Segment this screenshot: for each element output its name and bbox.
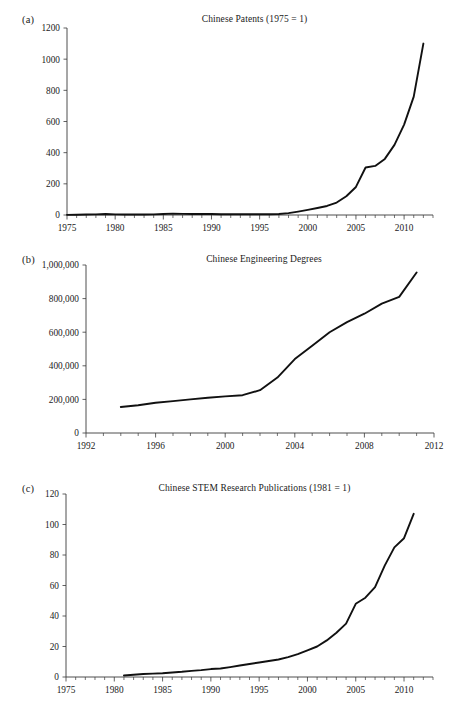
svg-text:1996: 1996 <box>146 441 165 451</box>
svg-text:120: 120 <box>45 489 59 499</box>
svg-text:1985: 1985 <box>153 685 172 695</box>
svg-text:1995: 1995 <box>250 685 269 695</box>
svg-text:400: 400 <box>46 148 60 158</box>
svg-text:2005: 2005 <box>346 685 365 695</box>
svg-text:1992: 1992 <box>77 441 96 451</box>
svg-text:2008: 2008 <box>355 441 374 451</box>
svg-text:2012: 2012 <box>425 441 444 451</box>
svg-text:1995: 1995 <box>250 223 269 233</box>
panel-b-plot: 0200,000400,000600,000800,0001,000,00019… <box>0 240 452 472</box>
svg-text:20: 20 <box>50 642 60 652</box>
svg-text:400,000: 400,000 <box>49 361 80 371</box>
svg-text:600,000: 600,000 <box>49 328 80 338</box>
svg-text:2005: 2005 <box>347 223 366 233</box>
svg-text:1975: 1975 <box>57 685 76 695</box>
figure-three-panel-charts: (a) Chinese Patents (1975 = 1) 020040060… <box>0 0 452 713</box>
svg-text:1985: 1985 <box>154 223 173 233</box>
chart-panel-c: (c) Chinese STEM Research Publications (… <box>0 472 452 713</box>
svg-text:800,000: 800,000 <box>49 294 80 304</box>
svg-text:2010: 2010 <box>395 223 414 233</box>
svg-text:1975: 1975 <box>58 223 77 233</box>
svg-text:1000: 1000 <box>41 55 60 65</box>
svg-text:2000: 2000 <box>298 223 317 233</box>
panel-a-plot: 0200400600800100012001975198019851990199… <box>0 0 452 240</box>
chart-panel-a: (a) Chinese Patents (1975 = 1) 020040060… <box>0 0 452 240</box>
svg-text:2010: 2010 <box>395 685 414 695</box>
svg-text:80: 80 <box>50 550 60 560</box>
svg-text:1990: 1990 <box>202 685 221 695</box>
svg-text:0: 0 <box>55 210 60 220</box>
svg-text:1200: 1200 <box>41 23 60 33</box>
svg-text:100: 100 <box>45 520 59 530</box>
svg-text:40: 40 <box>50 611 60 621</box>
svg-text:0: 0 <box>74 428 79 438</box>
svg-text:1,000,000: 1,000,000 <box>42 260 80 270</box>
svg-text:1980: 1980 <box>106 223 125 233</box>
panel-c-plot: 0204060801001201975198019851990199520002… <box>0 472 452 713</box>
svg-text:600: 600 <box>46 117 60 127</box>
svg-text:800: 800 <box>46 86 60 96</box>
svg-text:1990: 1990 <box>202 223 221 233</box>
chart-panel-b: (b) Chinese Engineering Degrees 0200,000… <box>0 240 452 472</box>
svg-text:200,000: 200,000 <box>49 395 80 405</box>
svg-text:60: 60 <box>50 581 60 591</box>
svg-text:0: 0 <box>54 672 59 682</box>
svg-text:2000: 2000 <box>298 685 317 695</box>
svg-text:2000: 2000 <box>216 441 235 451</box>
svg-text:1980: 1980 <box>105 685 124 695</box>
svg-text:2004: 2004 <box>286 441 305 451</box>
svg-text:200: 200 <box>46 179 60 189</box>
